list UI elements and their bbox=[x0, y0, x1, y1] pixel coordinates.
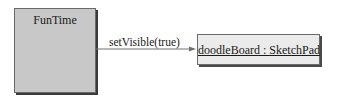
doodleboard-object-box: doodleBoard : SketchPad bbox=[197, 34, 320, 65]
arrowhead-icon bbox=[189, 47, 196, 52]
doodleboard-label: doodleBoard : SketchPad bbox=[198, 43, 319, 58]
message-label: setVisible(true) bbox=[109, 36, 180, 48]
